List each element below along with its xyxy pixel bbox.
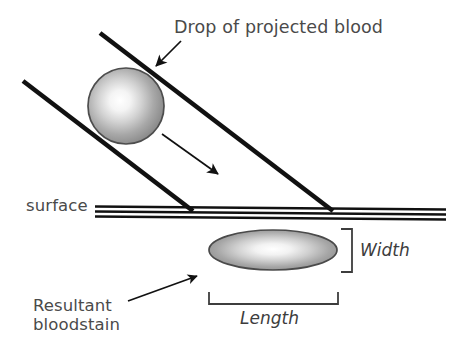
label-resultant-line1: Resultant <box>33 296 112 315</box>
length-dimension-bracket <box>209 292 338 304</box>
label-length: Length <box>240 308 299 328</box>
label-resultant-bloodstain: Resultantbloodstain <box>33 296 120 335</box>
motion-direction-arrow <box>162 134 218 174</box>
title-pointer-arrow <box>156 41 181 66</box>
surface-line-middle <box>95 212 446 215</box>
label-surface: surface <box>26 196 88 215</box>
surface-line-bottom <box>95 217 446 220</box>
blood-droplet-sphere <box>88 68 164 144</box>
diagram-canvas: Drop of projected blood surface Resultan… <box>0 0 450 354</box>
resultant-pointer-arrow <box>128 276 197 301</box>
width-dimension-bracket <box>341 229 352 272</box>
label-drop-of-projected-blood: Drop of projected blood <box>174 17 383 38</box>
surface-line-top <box>95 207 446 210</box>
label-resultant-line2: bloodstain <box>33 315 120 334</box>
label-width: Width <box>360 240 410 260</box>
resultant-bloodstain-ellipse <box>209 230 337 270</box>
